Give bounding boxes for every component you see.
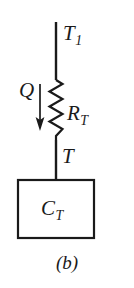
label-thermal-resistance-symbol: R [67,101,80,125]
label-node-temperature: T [62,146,74,167]
label-heat-flow-symbol: Q [19,78,34,102]
resistor-zigzag [50,80,63,140]
label-source-temperature: T1 [63,23,82,48]
figure-caption: (b) [0,252,134,274]
label-thermal-resistance: RT [67,103,88,128]
label-thermal-resistance-subscript: T [80,113,88,128]
label-node-temperature-symbol: T [62,144,74,168]
label-heat-flow: Q [19,80,34,101]
thermal-circuit-figure: T1 Q RT T CT (b) [0,0,134,288]
label-source-temperature-subscript: 1 [75,33,82,48]
label-source-temperature-symbol: T [63,21,75,45]
label-thermal-capacitance-subscript: T [56,208,64,223]
label-thermal-capacitance-symbol: C [41,196,55,220]
label-thermal-capacitance: CT [41,198,63,223]
